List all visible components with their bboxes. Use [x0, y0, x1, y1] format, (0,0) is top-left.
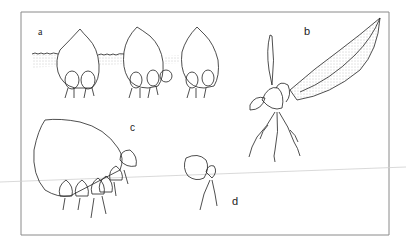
- panel-b: [249, 18, 380, 162]
- panel-c: [34, 119, 137, 218]
- label-b: b: [304, 25, 310, 37]
- label-c: c: [130, 122, 135, 133]
- label-a: a: [38, 26, 43, 37]
- panel-d: [184, 155, 217, 210]
- frame-border: [21, 12, 389, 235]
- label-d: d: [232, 195, 238, 207]
- botanical-illustration: a b c d: [0, 0, 406, 244]
- stray-line: [0, 167, 406, 182]
- panel-a: [32, 27, 219, 98]
